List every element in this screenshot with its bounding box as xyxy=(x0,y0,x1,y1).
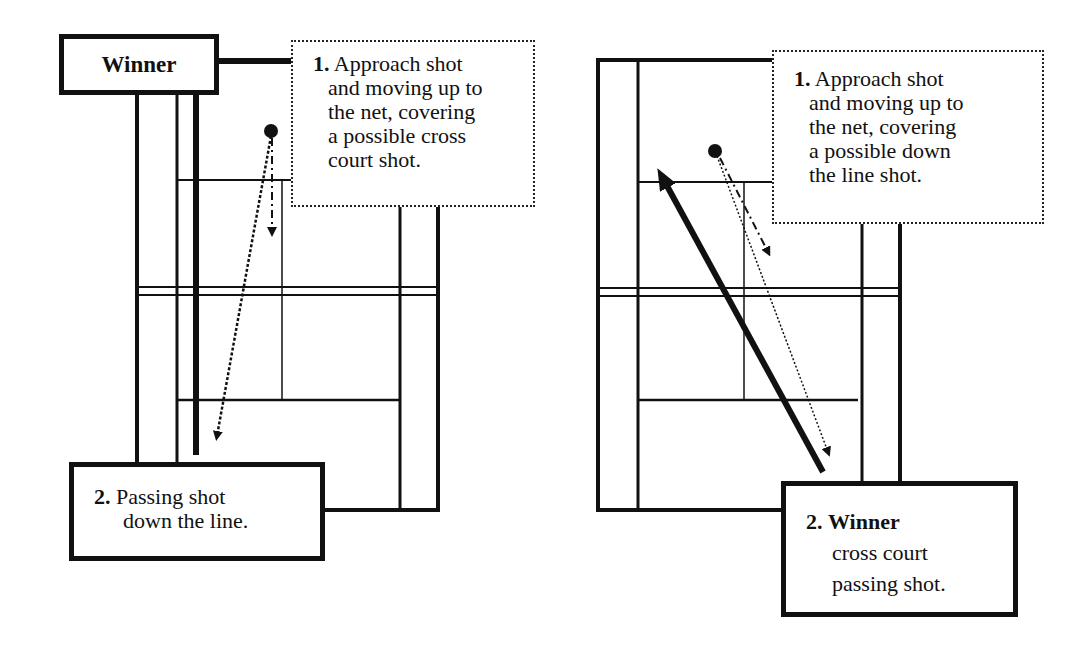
step-number: 2. xyxy=(94,484,111,509)
step-number: 1. xyxy=(794,66,811,91)
callout-line: a possible cross xyxy=(313,124,533,148)
callout-line: Approach shot xyxy=(334,51,463,76)
callout-line: the net, covering xyxy=(794,115,1042,139)
callout-line: court shot. xyxy=(313,148,533,172)
step-number: 1. xyxy=(313,51,330,76)
callout-line: the net, covering xyxy=(313,100,533,124)
winner-label-box: Winner xyxy=(59,34,219,95)
callout-line: and moving up to xyxy=(313,76,533,100)
callout-line: down the line. xyxy=(94,509,320,533)
callout-line: Approach shot xyxy=(815,66,944,91)
right-callout-approach: 1. Approach shot and moving up to the ne… xyxy=(772,50,1044,224)
callout-line: a possible down xyxy=(794,139,1042,163)
step-number: 2. xyxy=(806,509,823,534)
callout-line: and moving up to xyxy=(794,91,1042,115)
callout-line: cross court xyxy=(806,537,1013,568)
left-callout-passing: 2. Passing shot down the line. xyxy=(69,462,325,561)
callout-line: passing shot. xyxy=(806,568,1013,599)
winner-label: Winner xyxy=(102,53,177,77)
left-callout-approach: 1. Approach shot and moving up to the ne… xyxy=(291,40,535,207)
right-callout-winner: 2. Winner cross court passing shot. xyxy=(781,481,1018,617)
winner-title: Winner xyxy=(828,509,900,534)
callout-line: Passing shot xyxy=(116,484,225,509)
callout-line: the line shot. xyxy=(794,163,1042,187)
